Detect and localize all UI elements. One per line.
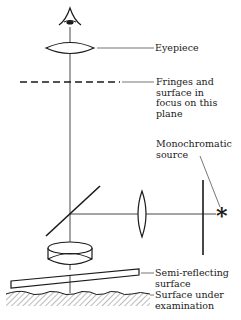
fringes-label: Fringes and surface in focus on this pla… [156,77,217,119]
semi-reflecting-label: Semi-reflecting surface [155,268,229,289]
eyepiece-lens [46,43,94,54]
eyepiece-label: Eyepiece [155,43,199,54]
source-label: Monochromatic source [156,139,232,160]
surface-under-label: Surface under examination [155,290,224,311]
beam-splitter [46,186,100,236]
condenser-lens [138,191,146,237]
source-symbol: * [216,204,228,226]
eye-icon [59,8,81,25]
objective-lens [48,242,92,265]
surface-under-examination [6,291,150,306]
semi-reflecting-plate [11,269,139,288]
